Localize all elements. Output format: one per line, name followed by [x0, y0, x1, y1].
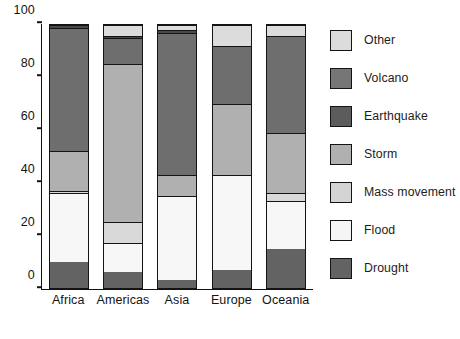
- bar-segment-volcano[interactable]: [104, 36, 142, 39]
- bar-segment-flood[interactable]: [104, 243, 142, 272]
- x-tick-label-europe: Europe: [205, 293, 257, 307]
- legend-label: Drought: [364, 261, 408, 275]
- bar-segment-volcano[interactable]: [158, 30, 196, 33]
- bar-segment-volcano[interactable]: [50, 25, 88, 28]
- bar-column-africa[interactable]: [49, 24, 89, 289]
- bar-stack: [103, 24, 143, 289]
- legend-label: Flood: [364, 223, 395, 237]
- bar-segment-mass-movement[interactable]: [50, 191, 88, 194]
- legend-swatch-icon: [330, 220, 352, 241]
- legend-swatch-icon: [330, 144, 352, 165]
- bar-segment-storm[interactable]: [50, 151, 88, 190]
- bar-segment-mass-movement[interactable]: [267, 193, 305, 201]
- bar-stack: [49, 24, 89, 289]
- bar-segment-earthquake[interactable]: [158, 33, 196, 175]
- y-tick-label: 80: [21, 56, 35, 70]
- bar-segment-earthquake[interactable]: [50, 28, 88, 152]
- bar-segment-drought[interactable]: [158, 280, 196, 288]
- legend-item-flood[interactable]: Flood: [330, 211, 456, 249]
- bar-segment-storm[interactable]: [213, 104, 251, 175]
- bar-segment-other[interactable]: [267, 25, 305, 36]
- y-tick-label: 40: [21, 162, 35, 176]
- x-tick-label-asia: Asia: [151, 293, 203, 307]
- stacked-bar-chart-figure: 020406080100 AfricaAmericasAsiaEuropeOce…: [0, 0, 460, 339]
- legend-label: Volcano: [364, 71, 408, 85]
- bar-stack: [266, 24, 306, 289]
- y-tick-label: 0: [28, 268, 35, 282]
- bars-layer: [42, 24, 313, 289]
- y-tick-mark: [37, 22, 42, 24]
- bar-column-oceania[interactable]: [266, 24, 306, 289]
- legend-swatch-icon: [330, 30, 352, 51]
- legend-swatch-icon: [330, 182, 352, 203]
- plot-area: 020406080100: [41, 24, 313, 290]
- y-tick-label: 20: [21, 215, 35, 229]
- bar-segment-earthquake[interactable]: [213, 46, 251, 104]
- bar-segment-flood[interactable]: [267, 201, 305, 248]
- chart-legend: OtherVolcanoEarthquakeStormMass movement…: [330, 21, 456, 287]
- x-tick-label-oceania: Oceania: [260, 293, 312, 307]
- bar-segment-other[interactable]: [213, 25, 251, 46]
- bar-stack: [157, 24, 197, 289]
- legend-swatch-icon: [330, 258, 352, 279]
- bar-segment-flood[interactable]: [158, 196, 196, 280]
- x-axis: AfricaAmericasAsiaEuropeOceania: [41, 293, 313, 307]
- legend-label: Mass movement: [364, 185, 456, 199]
- legend-item-drought[interactable]: Drought: [330, 249, 456, 287]
- legend-swatch-icon: [330, 68, 352, 89]
- legend-label: Earthquake: [364, 109, 428, 123]
- legend-swatch-icon: [330, 106, 352, 127]
- bar-segment-drought[interactable]: [213, 270, 251, 288]
- legend-item-earthquake[interactable]: Earthquake: [330, 97, 456, 135]
- bar-segment-other[interactable]: [158, 25, 196, 30]
- bar-segment-earthquake[interactable]: [267, 36, 305, 133]
- bar-segment-earthquake[interactable]: [104, 38, 142, 64]
- legend-item-other[interactable]: Other: [330, 21, 456, 59]
- legend-label: Storm: [364, 147, 397, 161]
- bar-column-asia[interactable]: [157, 24, 197, 289]
- bar-segment-flood[interactable]: [213, 175, 251, 270]
- y-tick-label: 60: [21, 109, 35, 123]
- bar-segment-mass-movement[interactable]: [104, 222, 142, 243]
- y-tick-label: 100: [14, 3, 35, 17]
- bar-segment-storm[interactable]: [158, 175, 196, 196]
- legend-item-volcano[interactable]: Volcano: [330, 59, 456, 97]
- legend-item-storm[interactable]: Storm: [330, 135, 456, 173]
- bar-column-europe[interactable]: [212, 24, 252, 289]
- x-tick-label-africa: Africa: [42, 293, 94, 307]
- bar-stack: [212, 24, 252, 289]
- bar-segment-other[interactable]: [104, 25, 142, 36]
- bar-segment-storm[interactable]: [104, 64, 142, 222]
- x-tick-label-americas: Americas: [97, 293, 149, 307]
- legend-label: Other: [364, 33, 395, 47]
- bar-column-americas[interactable]: [103, 24, 143, 289]
- bar-segment-storm[interactable]: [267, 133, 305, 193]
- bar-segment-drought[interactable]: [50, 262, 88, 288]
- legend-item-mass-movement[interactable]: Mass movement: [330, 173, 456, 211]
- bar-segment-drought[interactable]: [104, 272, 142, 288]
- bar-segment-flood[interactable]: [50, 193, 88, 261]
- bar-segment-drought[interactable]: [267, 249, 305, 288]
